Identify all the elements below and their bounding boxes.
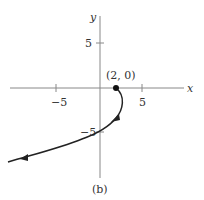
x-axis-label: x: [187, 82, 194, 95]
start-point-marker: [113, 85, 119, 91]
direction-arrow-icon: [111, 114, 120, 122]
y-axis-label: y: [89, 11, 97, 24]
y-tick-label-5: 5: [85, 37, 92, 50]
x-tick-label-neg5: −5: [51, 96, 67, 109]
point-label: (2, 0): [106, 69, 136, 82]
figure-caption: (b): [92, 183, 108, 196]
parametric-curve-diagram: x y −5 5 5 −5 (2, 0) (b): [0, 0, 204, 200]
x-tick-label-5: 5: [139, 96, 146, 109]
